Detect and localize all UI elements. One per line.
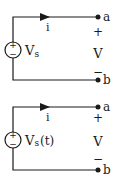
current-label: i [46, 111, 50, 124]
source-minus: − [9, 49, 17, 59]
circuit-diagrams: + − Vs i a b + V − + − Vs(t) i a b + V − [0, 0, 121, 180]
source-label: Vs [24, 43, 39, 59]
node-a-label: a [103, 10, 110, 24]
source-minus: − [9, 139, 17, 149]
minus-sign: − [93, 65, 103, 79]
node-b-label: b [103, 163, 111, 177]
top-wire [13, 107, 98, 132]
node-b-label: b [103, 73, 111, 87]
bottom-wire [13, 148, 98, 170]
node-a-icon [96, 105, 101, 110]
current-arrow-icon [40, 13, 50, 21]
circuit-1: + − Vs i a b + V − [5, 10, 111, 87]
source-label: Vs(t) [24, 133, 54, 148]
voltage-label: V [92, 46, 103, 61]
plus-sign: + [93, 25, 103, 39]
minus-sign: − [93, 152, 103, 166]
current-arrow-icon [40, 103, 50, 111]
node-a-icon [96, 15, 101, 20]
node-b-icon [96, 168, 101, 173]
node-a-label: a [103, 100, 110, 114]
plus-sign: + [93, 111, 103, 125]
top-wire [13, 17, 98, 42]
bottom-wire [13, 58, 98, 80]
current-label: i [46, 21, 50, 34]
circuit-2: + − Vs(t) i a b + V − [5, 100, 111, 177]
voltage-label: V [92, 134, 103, 149]
